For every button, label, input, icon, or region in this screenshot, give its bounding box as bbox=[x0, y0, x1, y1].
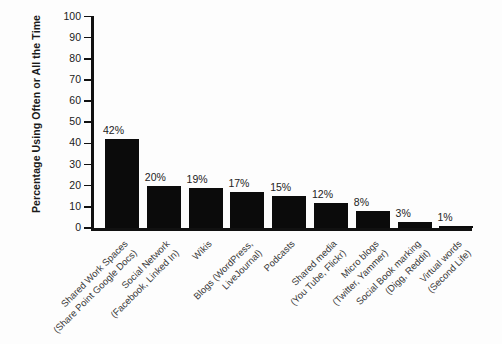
bar bbox=[272, 196, 306, 228]
y-axis-tick bbox=[84, 206, 92, 208]
bar-value-label: 20% bbox=[145, 171, 166, 183]
y-axis-tick-label: 30 bbox=[41, 158, 81, 170]
y-axis-tick bbox=[84, 58, 92, 60]
x-axis-baseline bbox=[91, 228, 472, 231]
y-axis-tick-label: 70 bbox=[41, 73, 81, 85]
bar-value-label: 12% bbox=[312, 188, 333, 200]
y-axis-tick-label: 50 bbox=[41, 115, 81, 127]
bar bbox=[147, 186, 181, 228]
y-axis-tick bbox=[84, 79, 92, 81]
category-label-line-1: Wikis bbox=[190, 238, 214, 262]
bar bbox=[230, 192, 264, 228]
bar-value-label: 17% bbox=[228, 177, 249, 189]
y-axis-tick-label: 60 bbox=[41, 94, 81, 106]
bar-value-label: 1% bbox=[437, 211, 452, 223]
bar-value-label: 19% bbox=[187, 173, 208, 185]
y-axis-tick bbox=[84, 164, 92, 166]
bar-value-label: 8% bbox=[354, 196, 369, 208]
y-axis-tick-label: 40 bbox=[41, 136, 81, 148]
bar bbox=[105, 139, 139, 228]
y-axis-tick bbox=[84, 185, 92, 187]
bar bbox=[314, 203, 348, 228]
y-axis-tick bbox=[84, 227, 92, 229]
y-axis-tick-label: 80 bbox=[41, 52, 81, 64]
bar-value-label: 15% bbox=[270, 181, 291, 193]
category-label-line-1: Podcasts bbox=[262, 238, 297, 273]
bar bbox=[398, 222, 432, 228]
y-axis-tick-label: 20 bbox=[41, 179, 81, 191]
y-axis-tick-label: 0 bbox=[41, 221, 81, 233]
bar bbox=[189, 188, 223, 228]
bar-chart: Percentage Using Often or All the Time 0… bbox=[0, 0, 502, 344]
y-axis-tick bbox=[84, 143, 92, 145]
y-axis-tick bbox=[84, 37, 92, 39]
bar bbox=[356, 211, 390, 228]
y-axis-tick-label: 100 bbox=[41, 10, 81, 22]
bar-value-label: 3% bbox=[396, 207, 411, 219]
y-axis-tick bbox=[84, 16, 92, 18]
y-axis-tick-label: 90 bbox=[41, 31, 81, 43]
y-axis-tick bbox=[84, 121, 92, 123]
y-axis-title: Percentage Using Often or All the Time bbox=[30, 7, 42, 222]
y-axis-tick-label: 10 bbox=[41, 200, 81, 212]
bar-value-label: 42% bbox=[103, 124, 124, 136]
bar bbox=[439, 226, 473, 228]
y-axis-tick bbox=[84, 100, 92, 102]
